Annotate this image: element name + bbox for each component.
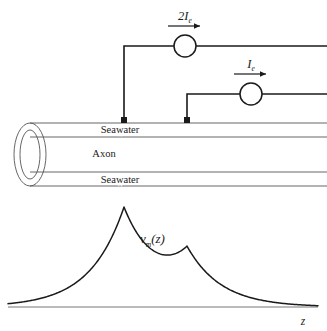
source-circle-upper: [174, 35, 196, 57]
membrane-potential-curve: [8, 207, 318, 306]
membrane-potential-plot: vm(z) z: [8, 207, 318, 327]
current-arrow-lower: [234, 71, 266, 77]
figure-canvas: 2Ie Ie Seawater Axon: [0, 0, 327, 331]
seawater-label-top: Seawater: [101, 124, 140, 135]
z-axis-label: z: [300, 315, 306, 327]
current-source-lower: Ie: [187, 57, 327, 120]
axon-cap-outer-ellipse: [14, 123, 46, 186]
electrode-pads: [121, 117, 190, 123]
wire-upper-left: [124, 46, 174, 120]
curve-label: vm(z): [140, 231, 165, 249]
current-source-upper: 2Ie: [124, 9, 327, 120]
electrode-pad-right: [184, 117, 190, 123]
electrode-pad-left: [121, 117, 127, 123]
source-circle-lower: [240, 83, 262, 105]
source-lower-label: Ie: [246, 57, 255, 73]
wire-lower-left: [187, 94, 240, 120]
axon-label: Axon: [92, 148, 116, 159]
current-arrow-upper: [168, 23, 200, 29]
axon-current-figure: 2Ie Ie Seawater Axon: [0, 0, 327, 331]
axon-cylinder: Seawater Axon Seawater: [14, 123, 327, 186]
source-upper-label: 2Ie: [178, 9, 192, 25]
seawater-label-bottom: Seawater: [101, 174, 140, 185]
